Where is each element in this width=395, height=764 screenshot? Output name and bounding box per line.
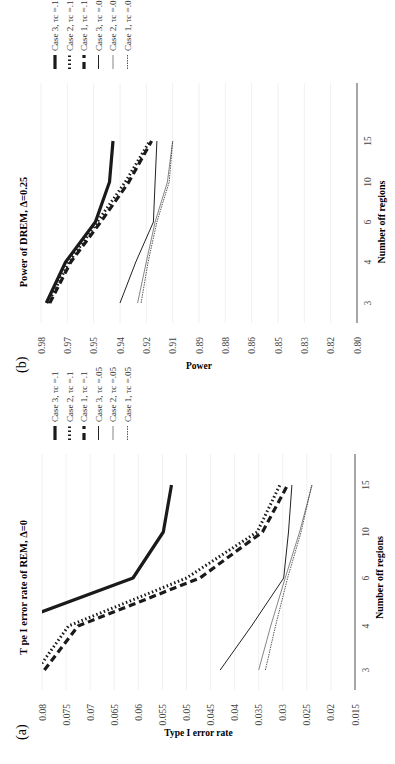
series-group: [0, 485, 312, 670]
y-tick-label: 0.07: [86, 704, 96, 721]
panel-label: (b): [14, 356, 30, 373]
y-tick-label: 0.065: [110, 704, 120, 726]
series-line: [141, 141, 173, 303]
y-tick-label: 0.98: [37, 337, 47, 354]
series-group: [46, 141, 172, 303]
x-tick-label: 3: [363, 300, 373, 305]
figure-svg: 0.0150.020.0250.030.0350.040.0450.050.05…: [0, 0, 395, 764]
legend-label: Case 1, τc =.1: [79, 1, 89, 51]
series-line: [259, 485, 312, 670]
chart-title: T pe I error rate of REM, Δ=0: [18, 520, 29, 655]
legend-label: Case 2, τc =.1: [65, 372, 75, 422]
y-tick-label: 0.04: [230, 704, 240, 721]
x-axis-title: Number off regions: [376, 180, 387, 263]
y-axis-title: Power: [186, 361, 213, 371]
y-tick-label: 0.91: [168, 337, 178, 354]
x-tick-label: 4: [363, 259, 373, 264]
figure: 0.0150.020.0250.030.0350.040.0450.050.05…: [0, 0, 395, 764]
legend-label: Case 2, τc =.05: [108, 0, 118, 51]
y-tick-label: 0.025: [302, 704, 312, 726]
y-tick-label: 0.03: [278, 704, 288, 721]
chart-panel-a: 0.0150.020.0250.030.0350.040.0450.050.05…: [0, 367, 385, 740]
x-tick-label: 4: [361, 623, 371, 628]
legend: Case 3, τc =.1Case 2, τc =.1Case 1, τc =…: [50, 367, 133, 440]
legend-label: Case 2, τc =.1: [65, 1, 75, 51]
y-axis-title: Type I error rate: [164, 728, 232, 738]
legend-label: Case 1, τc =.05: [123, 367, 133, 422]
y-tick-label: 0.97: [63, 337, 73, 354]
y-tick-label: 0.94: [116, 337, 126, 354]
legend-label: Case 1, τc =.1: [79, 372, 89, 422]
legend-label: Case 3, τc =.1: [50, 372, 60, 422]
series-line: [220, 485, 292, 670]
series-line: [46, 141, 113, 303]
chart-title: Power of DREM, Δ=0.25: [18, 177, 29, 288]
y-tick-label: 0.08: [38, 704, 48, 721]
legend-label: Case 3, τc =.05: [94, 367, 104, 422]
series-line: [120, 141, 157, 303]
x-tick-label: 6: [361, 575, 371, 580]
legend-label: Case 3, τc =.05: [94, 0, 104, 51]
x-tick-label: 6: [363, 219, 373, 224]
legend-label: Case 2, τc =.05: [108, 367, 118, 422]
series-line: [37, 485, 280, 670]
series-line: [50, 141, 152, 303]
x-tick-label: 15: [363, 136, 373, 146]
x-tick-label: 15: [361, 480, 371, 490]
y-tick-label: 0.95: [89, 337, 99, 354]
y-tick-label: 0.83: [300, 337, 310, 354]
panel-label: (a): [14, 724, 30, 740]
legend: Case 3, τc =.1Case 2, τc =.1Case 1, τc =…: [50, 0, 133, 69]
legend-label: Case 1, τc =.05: [123, 0, 133, 51]
y-tick-label: 0.05: [182, 704, 192, 721]
x-tick-label: 10: [361, 527, 371, 537]
chart-panel-b: 0.800.820.830.850.860.880.890.910.920.94…: [14, 0, 387, 373]
y-tick-label: 0.85: [274, 337, 284, 354]
y-tick-label: 0.82: [326, 337, 336, 354]
y-tick-label: 0.055: [158, 704, 168, 726]
x-tick-label: 3: [361, 667, 371, 672]
y-tick-label: 0.045: [206, 704, 216, 726]
x-tick-label: 10: [363, 177, 373, 187]
legend-label: Case 3, τc =.1: [50, 1, 60, 51]
x-axis-title: Number off regions: [374, 536, 385, 619]
y-tick-label: 0.86: [247, 337, 257, 354]
y-tick-label: 0.075: [62, 704, 72, 726]
y-tick-label: 0.88: [221, 337, 231, 354]
y-tick-label: 0.035: [254, 704, 264, 726]
y-tick-label: 0.06: [134, 704, 144, 721]
y-tick-label: 0.89: [195, 337, 205, 354]
y-tick-label: 0.92: [142, 337, 152, 354]
y-tick-label: 0.02: [326, 704, 336, 721]
y-tick-label: 0.80: [353, 337, 363, 354]
series-line: [138, 141, 173, 303]
y-tick-label: 0.015: [351, 704, 361, 726]
